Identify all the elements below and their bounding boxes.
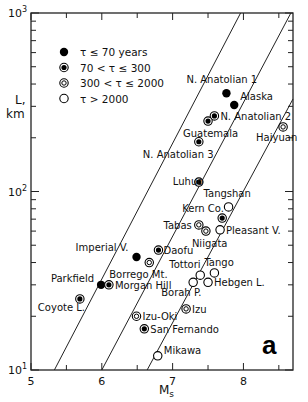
- y-tick-exp: 3: [22, 5, 27, 14]
- marker-core: [212, 113, 217, 118]
- marker-core: [196, 139, 201, 144]
- point-label: Morgan Hill: [115, 280, 172, 291]
- marker-ring: [195, 221, 203, 229]
- marker-open: [154, 352, 162, 360]
- marker-open: [60, 94, 68, 102]
- data-point: [204, 117, 212, 125]
- legend-label: τ ≤ 70 years: [80, 46, 147, 58]
- marker-open: [189, 278, 197, 286]
- point-label: N. Anatolian 3: [143, 149, 214, 160]
- point-label: Pleasant V.: [226, 225, 281, 236]
- x-axis-label-main: M: [159, 383, 169, 397]
- point-label: Mikawa: [164, 345, 201, 356]
- marker-open: [224, 203, 232, 211]
- marker-filled: [60, 48, 68, 56]
- y-tick-exp: 1: [22, 362, 27, 371]
- point-label: San Fernando: [150, 324, 219, 335]
- legend-label: 300 < τ ≤ 2000: [80, 77, 164, 89]
- point-label: Niigata: [192, 238, 228, 249]
- y-tick-base: 10: [8, 364, 22, 377]
- data-point: [132, 312, 140, 320]
- data-point: [97, 281, 105, 289]
- marker-ring: [60, 79, 68, 87]
- marker-open: [216, 226, 224, 234]
- y-axis-unit: km: [6, 107, 25, 121]
- marker-open: [204, 278, 212, 286]
- data-point: [132, 253, 140, 261]
- marker-filled: [230, 101, 238, 109]
- marker-ring: [145, 258, 153, 266]
- point-label: Luhuo: [173, 176, 204, 187]
- marker-filled: [132, 253, 140, 261]
- marker-core: [142, 326, 147, 331]
- data-point: [105, 281, 113, 289]
- point-label: Coyote L.: [38, 302, 85, 313]
- marker-core: [205, 118, 210, 123]
- y-tick-label: 101: [8, 362, 27, 377]
- point-label: N. Anatolian 2: [220, 111, 291, 122]
- data-point: [189, 278, 197, 286]
- data-point: [218, 214, 226, 222]
- data-point: [204, 278, 212, 286]
- marker-core: [220, 215, 225, 220]
- point-label: Daofu: [163, 245, 193, 256]
- marker-ring: [202, 227, 210, 235]
- marker-core: [77, 296, 82, 301]
- x-tick-label: 5: [28, 375, 35, 388]
- y-tick-exp: 2: [22, 184, 27, 193]
- marker-core: [156, 247, 161, 252]
- marker-open: [210, 269, 218, 277]
- marker-ring: [279, 123, 287, 131]
- point-label: Guatemala: [183, 128, 238, 139]
- marker-core: [106, 282, 111, 287]
- data-point: [145, 258, 153, 266]
- data-point: [222, 89, 230, 97]
- marker-ring: [182, 305, 190, 313]
- point-label: Izu-Oki: [143, 311, 178, 322]
- point-label: Tottori: [168, 259, 200, 270]
- chart: 5678101102103 N. Anatolian 1AlaskaN. Ana…: [0, 0, 308, 402]
- point-label: Tangshan: [203, 188, 251, 199]
- data-point: [224, 203, 232, 211]
- marker-open: [196, 271, 204, 279]
- marker-filled: [222, 89, 230, 97]
- legend-label: τ > 2000: [80, 93, 129, 105]
- legend-entry: 70 < τ ≤ 300: [60, 62, 151, 74]
- data-point: [196, 271, 204, 279]
- legend: τ ≤ 70 years70 < τ ≤ 300300 < τ ≤ 2000τ …: [60, 46, 164, 105]
- data-point: [216, 226, 224, 234]
- point-label: Kern Co.: [182, 203, 224, 214]
- data-point: [210, 269, 218, 277]
- data-point: [140, 325, 148, 333]
- marker-filled: [97, 281, 105, 289]
- y-tick-label: 103: [8, 5, 27, 20]
- y-tick-base: 10: [8, 7, 22, 20]
- legend-entry: τ ≤ 70 years: [60, 46, 148, 58]
- point-label: N. Anatolian 1: [186, 74, 257, 85]
- y-tick-label: 102: [8, 184, 27, 199]
- y-tick-base: 10: [8, 186, 22, 199]
- point-label: Tabas: [163, 220, 192, 231]
- data-point: [182, 305, 190, 313]
- data-point: [279, 123, 287, 131]
- legend-entry: 300 < τ ≤ 2000: [60, 77, 164, 89]
- point-labels: N. Anatolian 1AlaskaN. Anatolian 2Guatem…: [38, 74, 297, 356]
- point-label: Haiyuan: [256, 132, 297, 143]
- point-label: Alaska: [240, 91, 273, 102]
- point-label: Borrego Mt.: [109, 269, 167, 280]
- data-point: [202, 227, 210, 235]
- point-label: Izu: [192, 304, 207, 315]
- x-tick-label: 8: [240, 375, 247, 388]
- point-label: Imperial V.: [76, 242, 129, 253]
- legend-entry: τ > 2000: [60, 93, 129, 105]
- marker-ring: [132, 312, 140, 320]
- x-tick-label: 7: [169, 375, 176, 388]
- data-point: [154, 246, 162, 254]
- y-axis-label: L,: [15, 93, 26, 107]
- data-point: [195, 221, 203, 229]
- x-axis-label-sub: s: [169, 389, 174, 399]
- data-point: [154, 352, 162, 360]
- marker-core: [61, 65, 66, 70]
- legend-label: 70 < τ ≤ 300: [80, 62, 151, 74]
- panel-label: a: [262, 330, 277, 360]
